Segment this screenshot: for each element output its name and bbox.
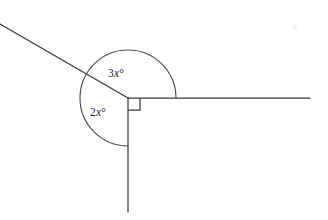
angle-label-upper-degree: ° bbox=[119, 67, 124, 79]
angle-label-lower-degree: ° bbox=[101, 106, 106, 118]
right-angle-square bbox=[128, 98, 140, 110]
angle-label-lower: 2x° bbox=[90, 107, 106, 119]
geometry-figure: 3x° 2x° bbox=[0, 0, 328, 220]
angle-label-upper: 3x° bbox=[108, 68, 124, 80]
geometry-canvas bbox=[0, 0, 328, 220]
diagonal-upper-left-ray bbox=[0, 24, 128, 98]
paper-speck-artifact bbox=[293, 24, 297, 30]
